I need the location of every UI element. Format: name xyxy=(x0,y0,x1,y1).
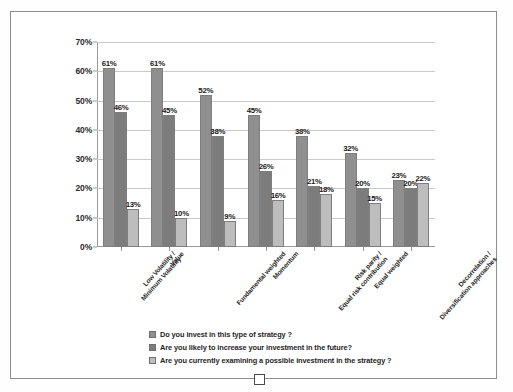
bar[interactable]: 10% xyxy=(175,218,187,247)
bar-value-label: 15% xyxy=(367,194,382,203)
bar-value-label: 18% xyxy=(319,185,334,194)
bar-value-label: 16% xyxy=(271,191,286,200)
bar-group: 61%45%10% xyxy=(145,42,193,247)
x-axis-label: Value xyxy=(169,250,186,268)
x-axis-label-line: Diversification approaches xyxy=(437,255,497,321)
legend-item[interactable]: Are you currently examining a possible i… xyxy=(149,356,449,365)
bar-value-label: 52% xyxy=(198,86,213,95)
bar-groups: 61%46%13%61%45%10%52%38%9%45%26%16%38%21… xyxy=(97,42,435,247)
x-label-cell: Fundamental weighted xyxy=(194,248,242,328)
bar[interactable]: 23% xyxy=(393,180,405,247)
bar[interactable]: 18% xyxy=(320,194,332,247)
bar-group: 32%20%15% xyxy=(338,42,386,247)
legend-swatch-icon xyxy=(149,357,156,364)
legend-label: Are you currently examining a possible i… xyxy=(160,356,392,365)
x-axis-label-line: Value xyxy=(169,250,186,268)
x-axis-label-line: Decorrelation / xyxy=(432,250,492,316)
x-label-cell: Low Volatility /Minimum Volatility xyxy=(97,248,145,328)
bar[interactable]: 32% xyxy=(345,153,357,247)
bar-value-label: 46% xyxy=(114,103,129,112)
bar[interactable]: 45% xyxy=(248,115,260,247)
bar[interactable]: 22% xyxy=(417,183,429,247)
bar-value-label: 32% xyxy=(343,144,358,153)
bar-value-label: 20% xyxy=(355,179,370,188)
bar-group: 23%20%22% xyxy=(387,42,435,247)
bar-group: 38%21%18% xyxy=(290,42,338,247)
bar-value-label: 26% xyxy=(259,162,274,171)
bar[interactable]: 52% xyxy=(200,95,212,247)
bar-value-label: 10% xyxy=(174,209,189,218)
y-tick-label: 50% xyxy=(76,96,92,106)
bar-value-label: 38% xyxy=(210,127,225,136)
x-label-cell: Risk parity /Equal risk contribution xyxy=(290,248,338,328)
x-label-cell: Value xyxy=(145,248,193,328)
legend-swatch-icon xyxy=(149,344,156,351)
bar-value-label: 13% xyxy=(126,200,141,209)
bar-value-label: 61% xyxy=(150,59,165,68)
bar-group: 52%38%9% xyxy=(194,42,242,247)
legend-item[interactable]: Do you invest in this type of strategy ? xyxy=(149,330,449,339)
bar[interactable]: 26% xyxy=(260,171,272,247)
x-axis-labels: Low Volatility /Minimum VolatilityValueF… xyxy=(97,248,435,328)
y-tick-label: 70% xyxy=(76,37,92,47)
bar-value-label: 45% xyxy=(162,106,177,115)
bar[interactable]: 61% xyxy=(151,68,163,247)
bar[interactable]: 9% xyxy=(224,221,236,247)
chart-legend: Do you invest in this type of strategy ?… xyxy=(149,330,449,369)
y-tick-label: 60% xyxy=(76,66,92,76)
y-tick-label: 0% xyxy=(80,242,92,252)
bar[interactable]: 21% xyxy=(308,186,320,248)
bar[interactable]: 46% xyxy=(115,112,127,247)
bar[interactable]: 15% xyxy=(369,203,381,247)
legend-swatch-icon xyxy=(149,331,156,338)
x-label-cell: Momentum xyxy=(242,248,290,328)
y-tick-label: 10% xyxy=(76,213,92,223)
bar-group: 45%26%16% xyxy=(242,42,290,247)
legend-item[interactable]: Are you likely to increase your investme… xyxy=(149,343,449,352)
bar[interactable]: 13% xyxy=(127,209,139,247)
legend-label: Do you invest in this type of strategy ? xyxy=(160,330,292,339)
y-tick-label: 20% xyxy=(76,183,92,193)
bar-value-label: 45% xyxy=(247,106,262,115)
bar[interactable]: 45% xyxy=(163,115,175,247)
bar-value-label: 23% xyxy=(391,171,406,180)
bar-value-label: 61% xyxy=(102,59,117,68)
chart-frame: 0%10%20%30%40%50%60%70% 61%46%13%61%45%1… xyxy=(10,11,497,379)
bar-value-label: 21% xyxy=(307,177,322,186)
bar-value-label: 9% xyxy=(224,212,235,221)
bar[interactable]: 61% xyxy=(103,68,115,247)
bar[interactable]: 20% xyxy=(405,188,417,247)
chart-figure: 0%10%20%30%40%50%60%70% 61%46%13%61%45%1… xyxy=(0,0,513,392)
bar-value-label: 22% xyxy=(415,174,430,183)
empty-checkbox-icon[interactable] xyxy=(254,374,265,385)
bar[interactable]: 38% xyxy=(296,136,308,247)
bar-value-label: 38% xyxy=(295,127,310,136)
x-label-cell: Decorrelation /Diversification approache… xyxy=(387,248,435,328)
x-label-cell: Equal weighted xyxy=(338,248,386,328)
legend-label: Are you likely to increase your investme… xyxy=(160,343,352,352)
bar[interactable]: 38% xyxy=(212,136,224,247)
y-tick-label: 40% xyxy=(76,125,92,135)
bar-group: 61%46%13% xyxy=(97,42,145,247)
x-axis-label: Decorrelation /Diversification approache… xyxy=(432,250,498,321)
y-tick-label: 30% xyxy=(76,154,92,164)
bar[interactable]: 16% xyxy=(272,200,284,247)
plot-wrapper: 0%10%20%30%40%50%60%70% 61%46%13%61%45%1… xyxy=(97,42,435,247)
